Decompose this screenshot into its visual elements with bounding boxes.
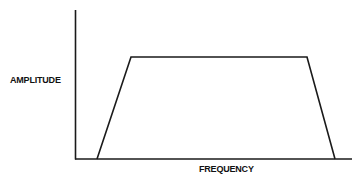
trapezoid-response-curve [97, 57, 335, 159]
diagram-canvas [0, 0, 361, 179]
y-axis-label: AMPLITUDE [10, 75, 61, 85]
x-axis-label: FREQUENCY [199, 164, 254, 174]
